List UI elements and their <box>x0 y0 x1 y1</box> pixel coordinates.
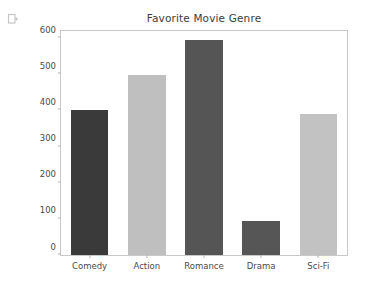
bar-chart-figure: Favorite Movie Genre 0100200300400500600… <box>0 0 365 286</box>
y-axis-tick-label: 400 <box>40 98 56 107</box>
y-axis-tick-mark <box>58 254 61 255</box>
bar-action <box>128 75 166 255</box>
y-axis-tick-mark <box>58 217 61 218</box>
plot-frame: 0100200300400500600ComedyActionRomanceDr… <box>60 30 348 256</box>
y-axis-tick-label: 0 <box>51 242 56 251</box>
y-axis-tick-mark <box>58 37 61 38</box>
bar-comedy <box>71 110 109 255</box>
bar-drama <box>242 221 280 255</box>
y-axis-tick-label: 600 <box>40 25 56 34</box>
bar-sci-fi <box>300 114 338 255</box>
x-axis-tick-mark <box>89 255 90 258</box>
y-axis-tick-label: 200 <box>40 170 56 179</box>
x-axis-tick-mark <box>261 255 262 258</box>
x-axis-tick-label: Sci-Fi <box>307 262 329 271</box>
y-axis-tick-label: 300 <box>40 134 56 143</box>
chart-title: Favorite Movie Genre <box>60 12 348 24</box>
plot-area: 0100200300400500600ComedyActionRomanceDr… <box>61 31 347 255</box>
y-axis-tick-mark <box>58 145 61 146</box>
x-axis-tick-mark <box>146 255 147 258</box>
y-axis-tick-label: 500 <box>40 62 56 71</box>
y-axis-tick-label: 100 <box>40 206 56 215</box>
x-axis-tick-label: Action <box>133 262 160 271</box>
x-axis-tick-label: Romance <box>184 262 224 271</box>
x-axis-tick-label: Drama <box>247 262 276 271</box>
y-axis-tick-mark <box>58 109 61 110</box>
y-axis-tick-mark <box>58 73 61 74</box>
x-axis-tick-mark <box>204 255 205 258</box>
x-axis-tick-label: Comedy <box>72 262 107 271</box>
x-axis-tick-mark <box>318 255 319 258</box>
bar-romance <box>185 40 223 255</box>
y-axis-tick-mark <box>58 181 61 182</box>
